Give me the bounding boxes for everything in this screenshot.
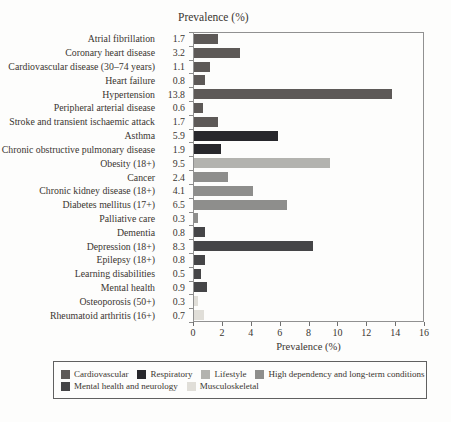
legend-label: Cardiovascular: [74, 369, 128, 379]
legend-item-mental_health: Mental health and neurology: [61, 381, 178, 391]
category-label: Chronic kidney disease (18+): [39, 185, 155, 196]
category-value: 0.6: [155, 102, 193, 113]
category-row: Atrial fibrillation1.7: [0, 32, 193, 46]
bar: [194, 117, 218, 127]
category-label: Rheumatoid arthritis (16+): [50, 310, 155, 321]
bar: [194, 48, 240, 58]
category-label: Palliative care: [99, 213, 155, 224]
category-value: 3.2: [155, 47, 193, 58]
category-value: 0.3: [155, 213, 193, 224]
y-tick: [189, 101, 193, 102]
category-value: 6.5: [155, 199, 193, 210]
bar: [194, 75, 205, 85]
category-label: Heart failure: [105, 75, 155, 86]
category-row: Osteoporosis (50+)0.3: [0, 294, 193, 308]
y-tick: [189, 46, 193, 47]
y-tick: [189, 281, 193, 282]
bar: [194, 34, 218, 44]
category-label: Coronary heart disease: [65, 47, 155, 58]
chart-title: Prevalence (%): [178, 11, 249, 23]
x-tick-label: 0: [180, 327, 206, 338]
category-label: Cancer: [127, 172, 155, 183]
legend-swatch: [201, 370, 210, 379]
category-row: Peripheral arterial disease0.6: [0, 101, 193, 115]
y-tick: [189, 170, 193, 171]
category-row: Obesity (18+)9.5: [0, 156, 193, 170]
bar: [194, 89, 392, 99]
category-label: Epilepsy (18+): [96, 254, 155, 265]
y-tick: [189, 308, 193, 309]
x-tick-label: 16: [411, 327, 437, 338]
x-tick-label: 14: [382, 327, 408, 338]
legend-swatch: [187, 382, 196, 391]
legend-label: Mental health and neurology: [74, 381, 178, 391]
x-tick: [395, 322, 396, 326]
y-tick: [189, 212, 193, 213]
category-row: Rheumatoid arthritis (16+)0.7: [0, 308, 193, 322]
legend-label: Lifestyle: [214, 369, 246, 379]
category-row: Mental health0.9: [0, 281, 193, 295]
category-label: Diabetes mellitus (17+): [62, 199, 155, 210]
category-value: 0.5: [155, 268, 193, 279]
x-tick-label: 4: [238, 327, 264, 338]
x-tick: [280, 322, 281, 326]
x-tick-label: 6: [267, 327, 293, 338]
bar: [194, 213, 198, 223]
category-label: Obesity (18+): [100, 158, 155, 169]
category-value: 0.7: [155, 310, 193, 321]
category-row: Stroke and transient ischaemic attack1.7: [0, 115, 193, 129]
bar: [194, 255, 205, 265]
category-value: 1.9: [155, 144, 193, 155]
legend-label: Musculoskeletal: [200, 381, 259, 391]
legend-swatch: [61, 382, 70, 391]
category-row: Palliative care0.3: [0, 212, 193, 226]
legend-box: CardiovascularRespiratoryLifestyleHigh d…: [53, 361, 427, 399]
category-row: Diabetes mellitus (17+)6.5: [0, 198, 193, 212]
category-label: Mental health: [101, 282, 155, 293]
y-tick: [189, 156, 193, 157]
bar: [194, 241, 313, 251]
category-row: Cancer2.4: [0, 170, 193, 184]
x-tick-label: 8: [296, 327, 322, 338]
x-axis-label: Prevalence (%): [193, 341, 424, 352]
legend-row: Mental health and neurologyMusculoskelet…: [61, 381, 420, 391]
category-row: Heart failure0.8: [0, 73, 193, 87]
category-value: 0.3: [155, 296, 193, 307]
y-tick: [189, 73, 193, 74]
category-axis: Atrial fibrillation1.7Coronary heart dis…: [0, 32, 193, 322]
legend-swatch: [137, 370, 146, 379]
x-tick: [366, 322, 367, 326]
category-row: Coronary heart disease3.2: [0, 46, 193, 60]
x-tick: [193, 322, 194, 326]
category-label: Peripheral arterial disease: [54, 102, 155, 113]
x-tick-label: 12: [353, 327, 379, 338]
category-value: 2.4: [155, 172, 193, 183]
y-tick: [189, 198, 193, 199]
bar: [194, 62, 210, 72]
x-tick: [222, 322, 223, 326]
y-tick: [189, 129, 193, 130]
category-value: 8.3: [155, 241, 193, 252]
category-value: 4.1: [155, 185, 193, 196]
y-tick: [189, 115, 193, 116]
bar: [194, 158, 330, 168]
category-value: 0.8: [155, 254, 193, 265]
bar: [194, 310, 204, 320]
y-tick: [189, 294, 193, 295]
category-row: Chronic kidney disease (18+)4.1: [0, 184, 193, 198]
y-tick: [189, 184, 193, 185]
prevalence-bar-chart: Prevalence (%) Atrial fibrillation1.7Cor…: [0, 0, 451, 422]
category-label: Chronic obstructive pulmonary disease: [2, 144, 155, 155]
category-label: Asthma: [125, 130, 155, 141]
bar: [194, 144, 221, 154]
bar: [194, 172, 228, 182]
category-row: Epilepsy (18+)0.8: [0, 253, 193, 267]
y-tick: [189, 60, 193, 61]
category-row: Chronic obstructive pulmonary disease1.9: [0, 143, 193, 157]
legend-swatch: [255, 370, 264, 379]
category-row: Dementia0.8: [0, 225, 193, 239]
x-tick-label: 10: [324, 327, 350, 338]
legend-item-high_dependency: High dependency and long-term conditions: [255, 369, 424, 379]
x-tick: [337, 322, 338, 326]
y-tick: [189, 32, 193, 33]
